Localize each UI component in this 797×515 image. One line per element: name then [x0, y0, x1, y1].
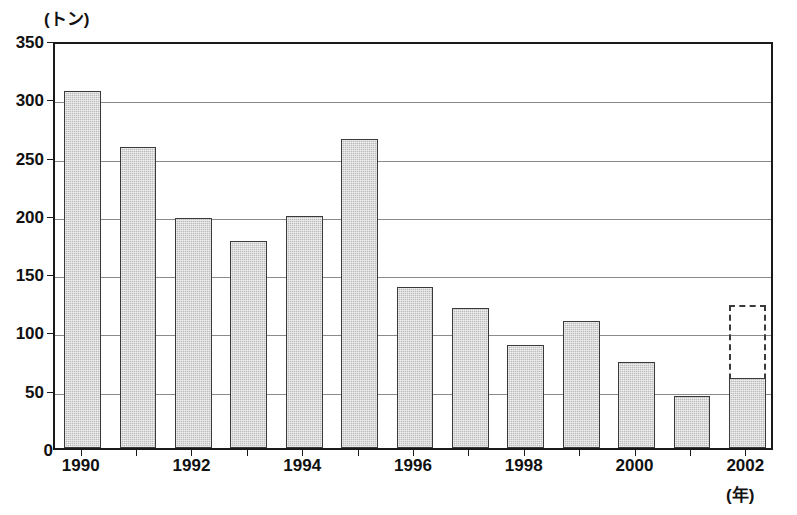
y-axis-tick-label-350: 350 — [0, 34, 44, 51]
y-axis-unit-label: (トン) — [44, 5, 89, 30]
x-axis-tick-mark-1996 — [413, 450, 414, 456]
plot-area — [53, 42, 773, 450]
bar-2002 — [729, 378, 766, 448]
bar-1992 — [175, 218, 212, 448]
x-axis-tick-label-2000: 2000 — [616, 456, 654, 476]
x-axis-tick-mark-1994 — [302, 450, 303, 456]
x-axis-tick-label-1998: 1998 — [505, 456, 543, 476]
bar-chart: (トン) (年) 0 50100150200250300350 19901992… — [0, 0, 797, 515]
y-axis-tick-label-250: 250 — [0, 151, 44, 168]
x-axis-tick-mark-1999 — [579, 450, 580, 456]
x-axis-tick-label-2002: 2002 — [726, 456, 764, 476]
bar-1996 — [397, 287, 434, 448]
x-axis-tick-mark-1993 — [247, 450, 248, 456]
x-axis-unit-label: (年) — [726, 481, 754, 506]
bar-1990 — [64, 91, 101, 448]
bar-2001 — [674, 396, 711, 448]
gridline-300 — [55, 102, 771, 103]
bar-1994 — [286, 216, 323, 448]
x-axis-tick-mark-1995 — [358, 450, 359, 456]
x-axis-tick-mark-1992 — [191, 450, 192, 456]
x-axis-tick-label-1994: 1994 — [283, 456, 321, 476]
y-axis-tick-label-50: 50 — [0, 384, 44, 401]
bar-1991 — [120, 147, 157, 448]
x-axis-tick-mark-1990 — [81, 450, 82, 456]
y-axis-tick-label-150: 150 — [0, 267, 44, 284]
gridline-250 — [55, 161, 771, 162]
bar-1999 — [563, 321, 600, 448]
y-axis-tick-label-100: 100 — [0, 325, 44, 342]
x-axis-tick-label-1992: 1992 — [173, 456, 211, 476]
x-axis-tick-mark-2002 — [745, 450, 746, 456]
bar-1997 — [452, 308, 489, 448]
x-axis-tick-mark-2001 — [690, 450, 691, 456]
gridline-200 — [55, 219, 771, 220]
x-axis-tick-mark-1998 — [524, 450, 525, 456]
y-axis-tick-label-0: 0 — [9, 441, 53, 461]
x-axis-tick-mark-2000 — [635, 450, 636, 456]
x-axis-tick-mark-1991 — [136, 450, 137, 456]
bar-1998 — [507, 345, 544, 448]
y-axis-tick-label-300: 300 — [0, 92, 44, 109]
y-axis-tick-label-200: 200 — [0, 209, 44, 226]
x-axis-tick-mark-1997 — [468, 450, 469, 456]
x-axis-tick-label-1996: 1996 — [394, 456, 432, 476]
gridline-150 — [55, 277, 771, 278]
bar-2000 — [618, 362, 655, 448]
x-axis-tick-label-1990: 1990 — [62, 456, 100, 476]
bar-1995 — [341, 139, 378, 448]
bar-1993 — [230, 241, 267, 448]
